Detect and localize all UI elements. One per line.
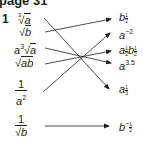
match-arrows bbox=[0, 0, 143, 145]
arrow-sqrt-b-to-b-half bbox=[45, 19, 111, 32]
arrow-sqrt-ab-to-a-half-b-half bbox=[45, 51, 111, 64]
